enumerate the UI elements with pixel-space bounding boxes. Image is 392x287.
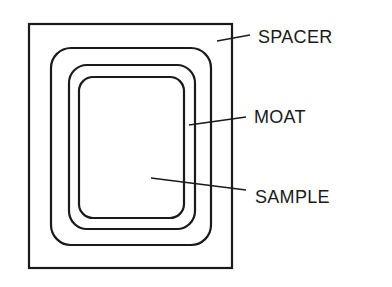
sample-label: SAMPLE bbox=[255, 187, 330, 207]
spacer-outline bbox=[29, 24, 232, 268]
moat-leader-line bbox=[189, 117, 246, 125]
moat-inner-outline bbox=[69, 65, 195, 229]
spacer-leader-line bbox=[217, 35, 250, 41]
sample-diagram: SPACER MOAT SAMPLE bbox=[0, 0, 392, 287]
moat-label: MOAT bbox=[254, 107, 306, 127]
spacer-label: SPACER bbox=[258, 27, 333, 47]
sample-outline bbox=[79, 77, 184, 218]
